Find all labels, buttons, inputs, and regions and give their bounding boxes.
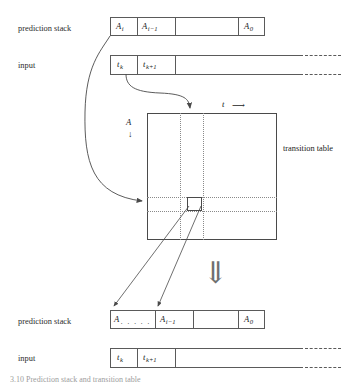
top-input-cell-1-sub: k+1 [145, 63, 156, 70]
top-stack-divider-3 [238, 17, 239, 36]
bottom-input-divider-1 [137, 348, 138, 367]
bottom-stack-cell-3: A0 [244, 315, 253, 324]
transition-table-selected-cell[interactable] [187, 197, 202, 211]
bottom-stack-cell-0: A. . . . . [114, 315, 151, 324]
bottom-stack-cell-0-dots: . . . . . [119, 318, 151, 326]
top-stack-cell-3-sub: 0 [249, 25, 253, 32]
top-stack-cell-0-sub: i [121, 25, 123, 32]
top-input-dash-lower [305, 74, 341, 75]
bottom-stack-cell-1-sub: i−1 [165, 318, 175, 325]
figure-canvas: prediction stack Ai Ai−1 A0 input tk tk+… [0, 0, 357, 382]
bottom-input-top-edge [110, 348, 303, 349]
label-input-bottom: input [18, 355, 35, 363]
bottom-stack-divider-1 [155, 310, 156, 329]
bottom-input-left-edge [110, 348, 111, 367]
bottom-stack-divider-3 [238, 310, 239, 329]
top-prediction-stack-box [110, 17, 265, 36]
top-input-dash-upper [305, 55, 341, 56]
top-stack-divider-1 [137, 17, 138, 36]
bottom-stack-cell-1: Ai−1 [160, 315, 175, 324]
figure-caption: 3.10 Prediction stack and transition tab… [10, 375, 141, 382]
top-input-cell-0: tk [117, 60, 123, 69]
top-input-bottom-edge [110, 74, 303, 75]
transition-table-guide-h1 [147, 197, 277, 198]
arrow-stack-to-table [85, 36, 142, 201]
bottom-stack-cell-3-sub: 0 [249, 318, 253, 325]
bottom-input-cell-1-sub: k+1 [145, 356, 156, 363]
bottom-stack-divider-2 [193, 310, 194, 329]
top-input-cell-0-sub: k [119, 63, 123, 70]
top-stack-cell-3: A0 [244, 22, 253, 31]
transition-table-guide-v1 [180, 113, 181, 240]
bottom-input-bottom-edge [110, 367, 303, 368]
top-stack-cell-1: Ai−1 [142, 22, 157, 31]
top-input-left-edge [110, 55, 111, 74]
bottom-input-cell-0-sub: k [119, 356, 123, 363]
transition-table-guide-v2 [203, 113, 204, 240]
bottom-input-divider-2 [175, 348, 176, 367]
arrow-input-to-table [126, 74, 190, 108]
axis-arrow-A-down: ↓ [128, 129, 133, 139]
bottom-input-dash-upper [305, 348, 341, 349]
bottom-input-dash-lower [305, 367, 341, 368]
label-input-top: input [18, 62, 35, 70]
bottom-input-cell-1: tk+1 [143, 353, 157, 362]
top-input-divider-2 [175, 55, 176, 74]
label-transition-table: transition table [283, 144, 333, 153]
big-down-arrow-icon: ⇓ [203, 258, 228, 288]
top-input-divider-1 [137, 55, 138, 74]
top-input-top-edge [110, 55, 303, 56]
axis-arrow-t-right: ⟶ [232, 100, 245, 110]
transition-table-box [147, 113, 277, 240]
axis-label-A: A [126, 117, 131, 127]
label-prediction-stack-top: prediction stack [18, 25, 71, 33]
label-prediction-stack-bottom: prediction stack [18, 318, 71, 326]
top-stack-cell-1-sub: i−1 [147, 25, 157, 32]
top-stack-cell-0: Ai [116, 22, 124, 31]
transition-table-guide-h2 [147, 211, 277, 212]
axis-label-t: t [222, 99, 224, 109]
top-stack-divider-2 [175, 17, 176, 36]
top-input-cell-1: tk+1 [143, 60, 157, 69]
bottom-input-cell-0: tk [117, 353, 123, 362]
